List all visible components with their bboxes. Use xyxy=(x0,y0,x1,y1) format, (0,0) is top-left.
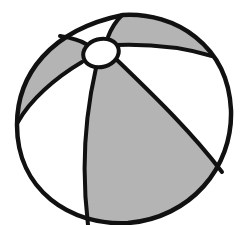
beach-ball-icon xyxy=(0,0,240,225)
beach-ball-illustration xyxy=(0,0,240,225)
